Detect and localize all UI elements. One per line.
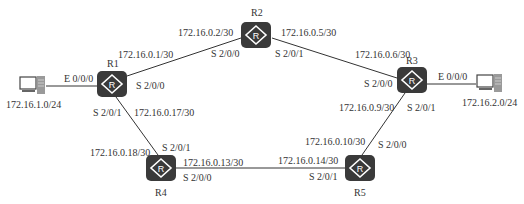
ip-r2-s201: 172.16.0.5/30	[281, 27, 336, 38]
host-pc1[interactable]	[19, 75, 47, 101]
ip-r4-s201: 172.16.0.18/30	[90, 147, 150, 158]
router-icon: R	[241, 22, 271, 48]
ip-r3-s200: 172.16.0.6/30	[355, 49, 410, 60]
if-r3-s200: S 2/0/0	[364, 78, 393, 89]
if-r3-s201: S 2/0/1	[407, 102, 436, 113]
svg-text:R: R	[253, 31, 260, 41]
ip-r1-s200: 172.16.0.1/30	[118, 49, 173, 60]
router-label-r2: R2	[251, 7, 263, 18]
ip-r4-s200: 172.16.0.13/30	[183, 157, 243, 168]
router-icon: R	[146, 155, 176, 181]
ip-r5-s200: 172.16.0.10/30	[305, 136, 365, 147]
router-icon: R	[397, 67, 427, 93]
router-r5[interactable]: R	[345, 155, 375, 181]
svg-text:R: R	[109, 80, 116, 90]
router-label-r5: R5	[354, 187, 366, 198]
ip-r5-s201: 172.16.0.14/30	[278, 155, 338, 166]
pc-icon	[19, 75, 47, 97]
network-topology-diagram: R R R R R	[0, 0, 524, 204]
router-label-r1: R1	[107, 58, 119, 69]
network-label-pc2: 172.16.2.0/24	[462, 97, 517, 108]
router-r4[interactable]: R	[146, 155, 176, 181]
if-r4-s200: S 2/0/0	[183, 172, 212, 183]
host-pc2[interactable]	[476, 73, 504, 99]
ip-r3-s201: 172.16.0.9/30	[339, 102, 394, 113]
router-icon: R	[97, 71, 127, 97]
router-label-r4: R4	[155, 187, 167, 198]
ip-r2-s200: 172.16.0.2/30	[178, 27, 233, 38]
router-r1[interactable]: R	[97, 71, 127, 97]
if-r1-e000: E 0/0/0	[64, 73, 93, 84]
if-r2-s201: S 2/0/1	[275, 48, 304, 59]
router-icon: R	[345, 155, 375, 181]
router-r2[interactable]: R	[241, 22, 271, 48]
svg-text:R: R	[357, 164, 364, 174]
if-r5-s200: S 2/0/0	[378, 139, 407, 150]
if-r3-e000: E 0/0/0	[438, 71, 467, 82]
if-r1-s200: S 2/0/0	[136, 80, 165, 91]
svg-text:R: R	[409, 76, 416, 86]
network-label-pc1: 172.16.1.0/24	[6, 99, 61, 110]
if-r4-s201: S 2/0/1	[162, 142, 191, 153]
ip-r1-s201: 172.16.0.17/30	[134, 107, 194, 118]
router-r3[interactable]: R	[397, 67, 427, 93]
if-r5-s201: S 2/0/1	[309, 171, 338, 182]
if-r2-s200: S 2/0/0	[211, 48, 240, 59]
pc-icon	[476, 73, 504, 95]
svg-text:R: R	[158, 164, 165, 174]
if-r1-s201: S 2/0/1	[93, 107, 122, 118]
